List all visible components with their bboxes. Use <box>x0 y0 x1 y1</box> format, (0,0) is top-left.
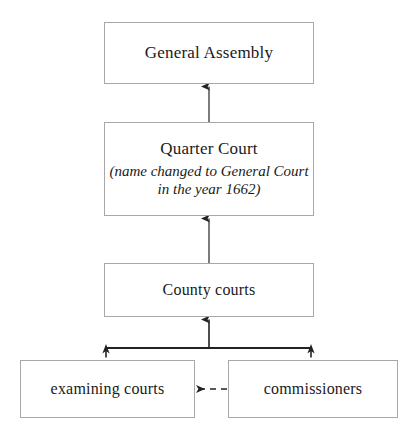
node-county-courts[interactable]: County courts <box>104 263 314 317</box>
node-county-courts-label: County courts <box>163 280 256 300</box>
node-examining-courts-label: examining courts <box>51 379 165 399</box>
edge-bracket-to-county <box>102 320 314 358</box>
node-commissioners[interactable]: commissioners <box>228 360 398 418</box>
node-general-assembly-label: General Assembly <box>145 43 273 64</box>
node-quarter-court[interactable]: Quarter Court (name changed to General C… <box>104 122 314 216</box>
node-quarter-court-note: (name changed to General Court in the ye… <box>105 162 313 200</box>
node-examining-courts[interactable]: examining courts <box>20 360 195 418</box>
node-general-assembly[interactable]: General Assembly <box>104 22 314 84</box>
node-quarter-court-label: Quarter Court <box>160 139 258 160</box>
diagram-canvas: General Assembly Quarter Court (name cha… <box>0 0 417 445</box>
node-commissioners-label: commissioners <box>264 379 363 399</box>
